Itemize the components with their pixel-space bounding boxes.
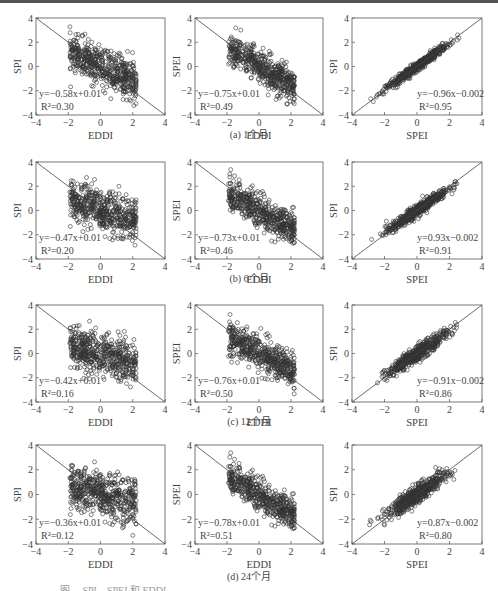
x-tick-label: 4 xyxy=(163,546,168,557)
y-axis-label: SPI xyxy=(328,202,339,218)
x-tick-label: −2 xyxy=(379,546,390,557)
y-tick-label: 2 xyxy=(344,181,349,192)
regression-equation: y=−0.75x+0.01 xyxy=(198,88,260,99)
y-tick-label: 0 xyxy=(344,489,349,500)
regression-equation: y=−0.91x−0.002 xyxy=(417,375,484,386)
y-tick-label: −2 xyxy=(22,229,33,240)
caption-b: (b) 6个月 xyxy=(0,270,498,285)
y-tick-label: 4 xyxy=(28,157,33,168)
y-tick-label: −4 xyxy=(181,110,192,121)
y-tick-label: 0 xyxy=(344,348,349,359)
regression-equation: y=−0.47x+0.01 xyxy=(39,232,101,243)
regression-equation: y=0.87x−0.002 xyxy=(417,517,478,528)
y-axis-label: SPI xyxy=(12,58,23,74)
r-squared-label: R²=0.91 xyxy=(419,245,452,256)
y-tick-label: 2 xyxy=(187,464,192,475)
y-tick-label: −2 xyxy=(338,85,349,96)
x-tick-label: 4 xyxy=(321,546,326,557)
caption-c: (c) 12个月 xyxy=(0,413,498,428)
y-tick-label: −2 xyxy=(22,85,33,96)
y-tick-label: −4 xyxy=(181,397,192,408)
x-tick-label: 2 xyxy=(447,546,452,557)
y-tick-label: 2 xyxy=(28,464,33,475)
regression-equation: y=−0.73x+0.01 xyxy=(198,232,260,243)
y-tick-label: 2 xyxy=(344,37,349,48)
scatter-panel-d2: −4−2024−4−2024EDDISPEIy=−0.78x+0.01R²=0.… xyxy=(171,439,331,574)
y-tick-label: −2 xyxy=(181,229,192,240)
y-tick-label: 4 xyxy=(344,300,349,311)
y-tick-label: 4 xyxy=(187,13,192,24)
y-tick-label: −2 xyxy=(338,229,349,240)
y-tick-label: 0 xyxy=(28,348,33,359)
y-tick-label: −4 xyxy=(338,397,349,408)
y-tick-label: 0 xyxy=(344,205,349,216)
y-tick-label: −4 xyxy=(22,539,33,550)
reference-line xyxy=(352,18,482,115)
y-axis-label: SPI xyxy=(12,486,23,502)
regression-equation: y=−0.36x+0.01 xyxy=(39,517,101,528)
r-squared-label: R²=0.46 xyxy=(200,245,233,256)
y-tick-label: 0 xyxy=(187,348,192,359)
r-squared-label: R²=0.51 xyxy=(200,530,233,541)
y-tick-label: −4 xyxy=(338,110,349,121)
y-tick-label: −4 xyxy=(22,110,33,121)
y-axis-label: SPI xyxy=(12,202,23,218)
x-tick-label: 0 xyxy=(98,546,103,557)
y-tick-label: 2 xyxy=(187,37,192,48)
y-axis-label: SPEI xyxy=(171,483,182,505)
r-squared-label: R²=0.20 xyxy=(41,245,74,256)
y-axis-label: SPEI xyxy=(171,199,182,221)
y-tick-label: 0 xyxy=(344,61,349,72)
y-axis-label: SPI xyxy=(328,345,339,361)
y-tick-label: 2 xyxy=(344,324,349,335)
x-tick-label: 4 xyxy=(480,546,485,557)
r-squared-label: R²=0.80 xyxy=(419,530,452,541)
r-squared-label: R²=0.50 xyxy=(200,388,233,399)
regression-equation: y=−0.76x+0.01 xyxy=(198,375,260,386)
y-tick-label: 4 xyxy=(344,13,349,24)
y-tick-label: 2 xyxy=(344,464,349,475)
y-tick-label: 4 xyxy=(187,440,192,451)
regression-equation: y=−0.58x+0.01 xyxy=(39,88,101,99)
y-tick-label: 0 xyxy=(28,61,33,72)
y-tick-label: −2 xyxy=(22,372,33,383)
y-axis-label: SPI xyxy=(328,58,339,74)
y-tick-label: −2 xyxy=(338,514,349,525)
y-tick-label: 4 xyxy=(28,13,33,24)
figure-caption-cutoff: 图 ... SPI、SPEI 和 EDDI ... xyxy=(0,582,498,591)
y-tick-label: −4 xyxy=(338,539,349,550)
top-rule xyxy=(0,0,498,3)
x-tick-label: 2 xyxy=(130,546,135,557)
y-axis-label: SPEI xyxy=(171,342,182,364)
y-tick-label: −2 xyxy=(181,85,192,96)
r-squared-label: R²=0.30 xyxy=(41,101,74,112)
y-tick-label: 0 xyxy=(187,489,192,500)
r-squared-label: R²=0.49 xyxy=(200,101,233,112)
reference-line xyxy=(352,162,482,259)
y-tick-label: 2 xyxy=(28,324,33,335)
y-tick-label: −4 xyxy=(181,539,192,550)
y-tick-label: 4 xyxy=(28,440,33,451)
y-tick-label: 0 xyxy=(28,205,33,216)
reference-line xyxy=(352,305,482,402)
y-tick-label: 0 xyxy=(28,489,33,500)
x-tick-label: 0 xyxy=(257,546,262,557)
r-squared-label: R²=0.12 xyxy=(41,530,74,541)
regression-equation: y=−0.78x+0.01 xyxy=(198,517,260,528)
y-tick-label: 0 xyxy=(187,61,192,72)
r-squared-label: R²=0.86 xyxy=(419,388,452,399)
y-tick-label: −4 xyxy=(22,397,33,408)
r-squared-label: R²=0.16 xyxy=(41,388,74,399)
y-tick-label: 4 xyxy=(187,300,192,311)
y-tick-label: −2 xyxy=(338,372,349,383)
x-tick-label: −2 xyxy=(63,546,74,557)
y-tick-label: 4 xyxy=(187,157,192,168)
y-axis-label: SPI xyxy=(12,345,23,361)
y-tick-label: −2 xyxy=(181,514,192,525)
y-axis-label: SPEI xyxy=(171,55,182,77)
y-tick-label: 4 xyxy=(344,440,349,451)
y-tick-label: 0 xyxy=(187,205,192,216)
regression-equation: y=0.93x−0.002 xyxy=(417,232,478,243)
regression-equation: y=−0.96x−0.002 xyxy=(417,88,484,99)
y-tick-label: −2 xyxy=(181,372,192,383)
